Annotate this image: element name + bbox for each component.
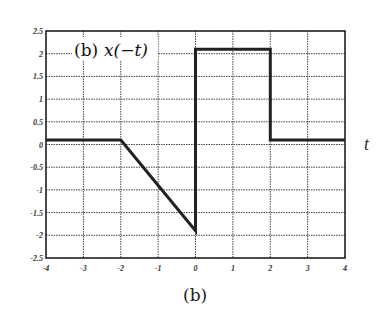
x-axis-variable-label: t — [364, 134, 369, 155]
y-axis-ticks: 2.521.510.50-0.5-1-1.5-2-2.5 — [30, 27, 43, 263]
x-tick-label: 0 — [194, 264, 198, 273]
x-tick-label: -1 — [155, 264, 162, 273]
y-tick-label: -0.5 — [30, 163, 43, 172]
x-axis-ticks: -4-3-2-101234 — [43, 264, 347, 273]
x-tick-label: 3 — [305, 264, 310, 273]
y-tick-label: -2 — [36, 231, 43, 240]
y-tick-label: 1.5 — [33, 72, 43, 81]
x-tick-label: -3 — [80, 264, 87, 273]
x-tick-label: -2 — [117, 264, 124, 273]
y-tick-label: 0.5 — [33, 118, 43, 127]
chart: 2.521.510.50-0.5-1-1.5-2-2.5 -4-3-2-1012… — [0, 0, 390, 333]
x-tick-label: -4 — [43, 264, 50, 273]
y-tick-label: 0 — [39, 141, 43, 150]
x-tick-label: 1 — [231, 264, 235, 273]
signal-line — [46, 49, 345, 231]
y-tick-label: 2.5 — [32, 27, 43, 36]
y-tick-label: -2.5 — [30, 254, 43, 263]
y-tick-label: 2 — [38, 50, 43, 59]
y-tick-label: -1 — [36, 186, 43, 195]
y-tick-label: -1.5 — [30, 209, 43, 218]
x-tick-label: 4 — [342, 264, 347, 273]
title-function: x(−t) — [104, 40, 148, 60]
y-tick-label: 1 — [39, 95, 43, 104]
title-prefix: (b) — [74, 40, 98, 60]
chart-title: (b) x(−t) — [72, 37, 158, 61]
x-tick-label: 2 — [267, 264, 272, 273]
figure-caption: (b) — [183, 285, 207, 305]
